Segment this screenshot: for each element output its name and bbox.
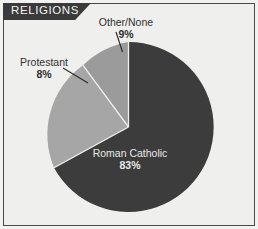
slice-label-protestant: Protestant 8% [2, 57, 86, 81]
religions-pie-chart-panel: RELIGIONS Other/None 9% Protestant 8% Ro… [0, 0, 258, 229]
slice-label-roman-catholic-percent: 83% [85, 160, 175, 172]
slice-label-other-none: Other/None 9% [83, 17, 169, 41]
slice-label-other-none-percent: 9% [83, 29, 169, 41]
slice-label-protestant-percent: 8% [2, 69, 86, 81]
page-title: RELIGIONS [11, 4, 79, 16]
slice-label-roman-catholic: Roman Catholic 83% [85, 148, 175, 172]
